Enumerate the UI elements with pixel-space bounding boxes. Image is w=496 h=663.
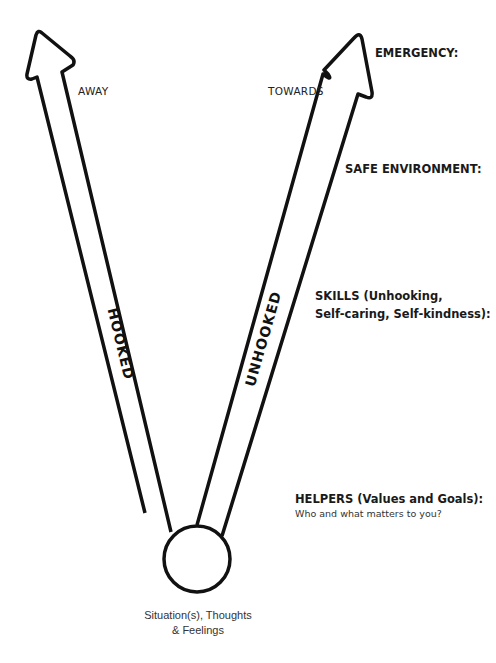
- origin-caption: Situation(s), Thoughts & Feelings: [137, 608, 259, 638]
- towards-label: TOWARDS: [268, 85, 324, 97]
- away-label: AWAY: [78, 85, 108, 97]
- helpers-subtext: Who and what matters to you?: [295, 508, 483, 519]
- choice-point-diagram: HOOKED UNHOOKED: [0, 0, 496, 663]
- towards-arrow: [197, 35, 372, 536]
- origin-caption-line1: Situation(s), Thoughts: [137, 608, 259, 623]
- emergency-heading: EMERGENCY:: [375, 44, 458, 62]
- away-arrow: [27, 31, 171, 532]
- skills-heading: SKILLS (Unhooking, Self-caring, Self-kin…: [315, 287, 491, 323]
- skills-heading-line1: SKILLS (Unhooking,: [315, 287, 491, 305]
- helpers-heading: HELPERS (Values and Goals):: [295, 490, 483, 508]
- helpers-section: HELPERS (Values and Goals): Who and what…: [295, 490, 483, 519]
- origin-caption-line2: & Feelings: [137, 623, 259, 638]
- origin-circle: [164, 526, 230, 592]
- skills-heading-line2: Self-caring, Self-kindness):: [315, 305, 491, 323]
- safe-environment-heading: SAFE ENVIRONMENT:: [345, 160, 482, 178]
